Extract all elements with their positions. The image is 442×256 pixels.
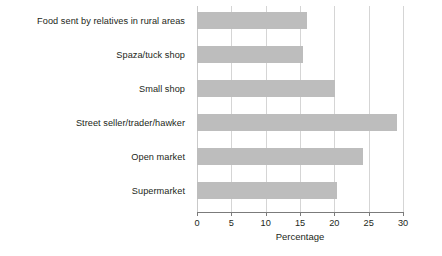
category-label: Street seller/trader/hawker bbox=[76, 118, 185, 128]
category-axis: SupermarketOpen marketStreet seller/trad… bbox=[0, 0, 191, 212]
category-label: Small shop bbox=[139, 84, 185, 94]
x-tick-5 bbox=[231, 212, 232, 216]
x-tick-label: 5 bbox=[216, 218, 246, 229]
x-tick-20 bbox=[334, 212, 335, 216]
gridline-25 bbox=[369, 6, 370, 212]
x-tick-0 bbox=[197, 212, 198, 216]
gridline-30 bbox=[403, 6, 404, 212]
category-label: Open market bbox=[131, 152, 185, 162]
x-tick-label: 20 bbox=[319, 218, 349, 229]
x-tick-label: 25 bbox=[354, 218, 384, 229]
plot-area bbox=[197, 6, 403, 212]
bar bbox=[197, 80, 335, 97]
bar bbox=[197, 12, 307, 29]
x-tick-10 bbox=[266, 212, 267, 216]
x-tick-30 bbox=[403, 212, 404, 216]
x-tick-25 bbox=[369, 212, 370, 216]
x-tick-15 bbox=[300, 212, 301, 216]
bar bbox=[197, 148, 363, 165]
x-axis-title: Percentage bbox=[197, 231, 403, 242]
x-tick-label: 15 bbox=[285, 218, 315, 229]
x-tick-label: 30 bbox=[388, 218, 418, 229]
bar bbox=[197, 46, 303, 63]
bar-chart: SupermarketOpen marketStreet seller/trad… bbox=[0, 0, 442, 256]
x-tick-label: 0 bbox=[182, 218, 212, 229]
bar bbox=[197, 114, 397, 131]
bar bbox=[197, 182, 337, 199]
category-label: Spaza/tuck shop bbox=[116, 50, 185, 60]
category-label: Food sent by relatives in rural areas bbox=[37, 16, 185, 26]
x-tick-label: 10 bbox=[251, 218, 281, 229]
category-label: Supermarket bbox=[132, 186, 185, 196]
